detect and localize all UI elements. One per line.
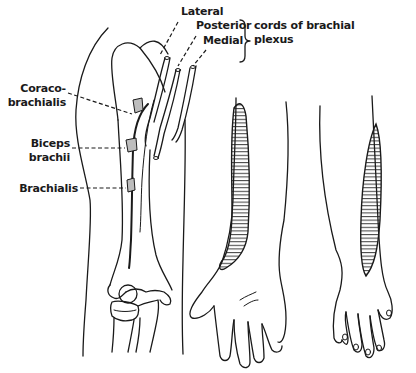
arm-outline: [76, 28, 185, 356]
muscle-branches: [126, 98, 143, 192]
sensory-area-anterior: [220, 104, 250, 270]
brachial-plexus-cords: [145, 57, 196, 160]
leader-posterior: [178, 36, 196, 66]
anterior-forearm: [190, 98, 288, 368]
label-lateral-cord: Lateral: [181, 5, 223, 18]
leader-lateral: [160, 22, 178, 55]
label-medial-cord: Medial: [203, 34, 243, 47]
label-posterior-cord: Posterior: [196, 19, 251, 32]
musculocutaneous-nerve-diagram: Lateral Posterior Medial cords of brachi…: [0, 0, 416, 373]
sensory-area-posterior: [361, 124, 381, 276]
elbow-bones: [111, 285, 159, 352]
label-biceps-line1: Biceps: [4, 137, 70, 150]
label-cords-line1: cords of brachial: [254, 19, 355, 32]
brachialis-stump: [127, 178, 135, 192]
leader-coracobrachialis: [68, 93, 132, 114]
leader-medial: [193, 50, 206, 66]
label-cords-line2: plexus: [254, 33, 293, 46]
biceps-brachii-stump: [126, 138, 137, 152]
label-brachialis: Brachialis: [4, 182, 78, 195]
posterior-forearm: [320, 96, 392, 358]
label-coracobrachialis-line1: Coraco-: [4, 82, 66, 95]
label-biceps-line2: brachii: [4, 151, 70, 164]
coracobrachialis-stump: [133, 98, 143, 113]
label-coracobrachialis-line2: brachialis: [4, 96, 66, 109]
